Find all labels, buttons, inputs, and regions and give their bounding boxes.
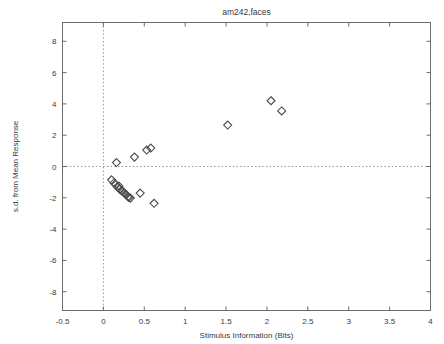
y-tick-label: 2 xyxy=(52,131,57,140)
y-axis-label: s.d. from Mean Response xyxy=(11,120,20,212)
x-tick-label: 2 xyxy=(265,317,270,326)
x-axis-ticks: -0.500.511.522.533.54 xyxy=(56,23,434,326)
x-tick-label: 4 xyxy=(428,317,433,326)
y-tick-label: -4 xyxy=(49,225,57,234)
y-tick-label: -2 xyxy=(49,194,57,203)
data-points xyxy=(108,97,286,208)
chart-title: am242,faces xyxy=(222,7,271,17)
x-axis-label: Stimulus Information (Bits) xyxy=(200,331,294,340)
y-tick-label: 6 xyxy=(52,69,57,78)
y-tick-label: -6 xyxy=(49,256,57,265)
y-tick-label: 0 xyxy=(52,163,57,172)
plot-frame xyxy=(63,23,431,311)
x-tick-label: 0 xyxy=(101,317,106,326)
x-tick-label: 1.5 xyxy=(220,317,232,326)
y-tick-label: -8 xyxy=(49,288,57,297)
x-tick-label: 3 xyxy=(346,317,351,326)
data-point-marker xyxy=(267,97,275,105)
data-point-marker xyxy=(224,121,232,129)
x-tick-label: 0.5 xyxy=(139,317,151,326)
x-tick-label: -0.5 xyxy=(56,317,70,326)
y-tick-label: 4 xyxy=(52,100,57,109)
y-axis-ticks: -8-6-4-202468 xyxy=(49,37,430,296)
reference-lines xyxy=(63,23,431,311)
data-point-marker xyxy=(130,153,138,161)
data-point-marker xyxy=(112,159,120,167)
data-point-marker xyxy=(150,199,158,207)
x-tick-label: 2.5 xyxy=(302,317,314,326)
scatter-plot-figure: -0.500.511.522.533.54 -8-6-4-202468 am24… xyxy=(0,0,444,344)
y-tick-label: 8 xyxy=(52,37,57,46)
data-point-marker xyxy=(278,107,286,115)
data-point-marker xyxy=(136,189,144,197)
x-tick-label: 1 xyxy=(183,317,188,326)
x-tick-label: 3.5 xyxy=(384,317,396,326)
